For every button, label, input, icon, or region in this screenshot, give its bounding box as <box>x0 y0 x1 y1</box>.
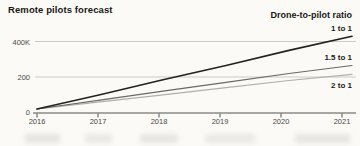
y-tick-label-0: 0 <box>0 108 30 117</box>
x-tick-label-2018: 2018 <box>144 117 174 126</box>
y-tick-label-200: 200 <box>0 73 30 82</box>
y-tick-label-400K: 400K <box>0 38 30 47</box>
blurred-text-strip <box>0 134 360 143</box>
line-chart-canvas <box>0 0 360 146</box>
series-line-2to1 <box>37 74 352 109</box>
x-tick-label-2019: 2019 <box>205 117 235 126</box>
x-tick-label-2017: 2017 <box>83 117 113 126</box>
chart-card: Remote pilots forecast Drone-to-pilot ra… <box>0 0 360 146</box>
x-tick-label-2021: 2021 <box>327 117 357 126</box>
series-line-1to1 <box>37 36 352 109</box>
x-tick-label-2020: 2020 <box>266 117 296 126</box>
x-tick-label-2016: 2016 <box>22 117 52 126</box>
